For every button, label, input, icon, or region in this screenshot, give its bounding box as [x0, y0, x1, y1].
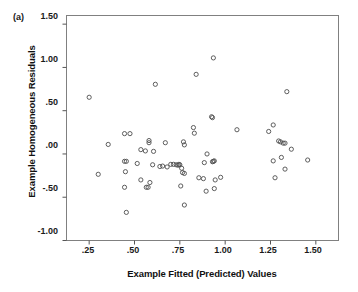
data-point — [283, 167, 287, 171]
data-point — [163, 141, 167, 145]
data-point — [212, 186, 216, 190]
data-point — [123, 170, 127, 174]
data-point — [201, 177, 205, 181]
data-point — [124, 210, 128, 214]
data-point — [122, 132, 126, 136]
data-point — [306, 158, 310, 162]
data-point — [211, 56, 215, 60]
data-point — [197, 176, 201, 180]
data-point — [143, 149, 147, 153]
data-point — [213, 178, 217, 182]
plot-frame — [67, 16, 339, 241]
data-point — [271, 159, 275, 163]
data-point — [151, 149, 155, 153]
data-point — [139, 148, 143, 152]
data-point — [289, 147, 293, 151]
data-point — [191, 125, 195, 129]
y-tick-marks — [63, 24, 67, 240]
data-point — [205, 152, 209, 156]
plot-canvas — [0, 0, 358, 292]
data-point — [279, 155, 283, 159]
data-points-layer — [87, 56, 310, 215]
data-point — [87, 95, 91, 99]
data-point — [161, 164, 165, 168]
data-point — [96, 172, 100, 176]
data-point — [285, 90, 289, 94]
data-point — [180, 166, 184, 170]
data-point — [202, 161, 206, 165]
data-point — [219, 175, 223, 179]
data-point — [194, 72, 198, 76]
x-tick-marks — [89, 241, 316, 245]
data-point — [128, 132, 132, 136]
data-point — [271, 123, 275, 127]
data-point — [273, 176, 277, 180]
data-point — [204, 189, 208, 193]
data-point — [106, 142, 110, 146]
data-point — [153, 82, 157, 86]
data-point — [182, 203, 186, 207]
data-point — [135, 161, 139, 165]
data-point — [179, 184, 183, 188]
data-point — [235, 128, 239, 132]
data-point — [139, 178, 143, 182]
data-point — [192, 131, 196, 135]
data-point — [267, 129, 271, 133]
data-point — [151, 163, 155, 167]
data-point — [122, 185, 126, 189]
scatter-plot-figure: (a) Example Homogeneous Residuals Exampl… — [0, 0, 358, 292]
data-point — [148, 180, 152, 184]
